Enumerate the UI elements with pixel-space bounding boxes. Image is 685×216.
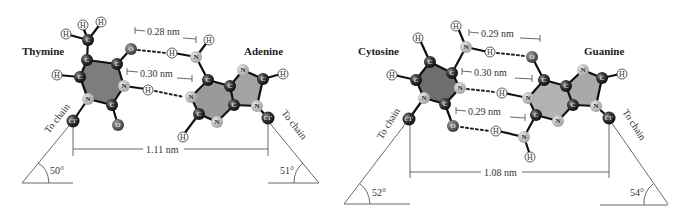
svg-text:C: C bbox=[563, 82, 568, 90]
svg-text:N: N bbox=[525, 94, 530, 102]
svg-text:H: H bbox=[206, 36, 212, 45]
thymine-title: Thymine bbox=[22, 45, 64, 57]
svg-text:C1': C1' bbox=[605, 115, 614, 121]
svg-text:N: N bbox=[555, 117, 560, 125]
svg-text:N: N bbox=[240, 66, 245, 74]
svg-text:H: H bbox=[415, 34, 421, 43]
svg-text:C: C bbox=[260, 75, 265, 83]
svg-text:C: C bbox=[413, 76, 418, 84]
svg-text:H: H bbox=[180, 133, 186, 142]
svg-text:H: H bbox=[80, 21, 86, 30]
svg-text:C: C bbox=[109, 101, 114, 109]
svg-text:H: H bbox=[280, 70, 286, 79]
svg-text:C: C bbox=[77, 73, 82, 81]
svg-text:C: C bbox=[196, 110, 201, 118]
svg-text:C: C bbox=[427, 58, 432, 66]
hbond-2-distance: 0.30 nm bbox=[140, 68, 173, 79]
guanine-to-chain-label: To chain bbox=[620, 107, 648, 142]
svg-text:N: N bbox=[214, 118, 219, 126]
cytosine-title: Cytosine bbox=[358, 45, 399, 57]
svg-text:H: H bbox=[499, 89, 505, 98]
svg-text:C: C bbox=[442, 100, 447, 108]
c1-c1-distance: 1.11 nm bbox=[146, 144, 179, 155]
svg-text:H: H bbox=[487, 48, 493, 57]
svg-text:O: O bbox=[450, 122, 456, 130]
svg-text:H: H bbox=[63, 30, 69, 39]
hbond-3-distance: 0.29 nm bbox=[468, 106, 501, 117]
svg-text:C: C bbox=[231, 101, 236, 109]
panel-thymine-adenine: C C C N C N C O O C1' HHH HH C C C N C N… bbox=[22, 17, 319, 183]
svg-text:H: H bbox=[389, 71, 395, 80]
svg-text:C1': C1' bbox=[69, 118, 78, 124]
guanine-title: Guanine bbox=[584, 45, 624, 57]
svg-text:N: N bbox=[593, 102, 598, 110]
adenine-title: Adenine bbox=[244, 45, 283, 57]
svg-text:H: H bbox=[619, 70, 625, 79]
svg-text:N: N bbox=[457, 84, 462, 92]
svg-text:N: N bbox=[85, 95, 90, 103]
svg-text:H: H bbox=[98, 18, 104, 27]
svg-text:O: O bbox=[529, 53, 535, 61]
svg-text:N: N bbox=[463, 43, 468, 51]
guanine-glycosidic-angle: 54° bbox=[630, 187, 644, 198]
svg-text:C: C bbox=[84, 56, 89, 64]
svg-text:C: C bbox=[85, 36, 90, 44]
adenine-glycosidic-angle: 51° bbox=[280, 165, 294, 176]
svg-text:H: H bbox=[493, 127, 499, 136]
svg-text:H: H bbox=[453, 22, 459, 31]
svg-text:N: N bbox=[580, 66, 585, 74]
svg-text:N: N bbox=[254, 102, 259, 110]
svg-text:H: H bbox=[527, 153, 533, 162]
svg-text:C: C bbox=[533, 111, 538, 119]
hbond-1-distance: 0.28 nm bbox=[147, 26, 180, 37]
svg-text:N: N bbox=[421, 94, 426, 102]
svg-text:H: H bbox=[145, 86, 151, 95]
cytosine-to-chain-label: To chain bbox=[374, 106, 402, 141]
thymine-glycosidic-angle: 50° bbox=[50, 165, 64, 176]
svg-text:H: H bbox=[54, 71, 60, 80]
c1-c1-distance: 1.08 nm bbox=[484, 167, 517, 178]
svg-text:N: N bbox=[121, 82, 126, 90]
hbond-1-distance: 0.29 nm bbox=[481, 28, 514, 39]
panel-cytosine-guanine: C C N C N C N O C1' HH HH C C C N C N N … bbox=[344, 21, 668, 205]
svg-text:C: C bbox=[227, 82, 232, 90]
base-pair-diagram: C C C N C N C O O C1' HHH HH C C C N C N… bbox=[0, 0, 685, 216]
svg-text:C: C bbox=[570, 101, 575, 109]
hbond-2-distance: 0.30 nm bbox=[474, 67, 507, 78]
adenine-to-chain-label: To chain bbox=[279, 107, 309, 141]
svg-text:N: N bbox=[521, 133, 526, 141]
svg-text:C: C bbox=[541, 76, 546, 84]
cytosine-glycosidic-angle: 52° bbox=[372, 187, 386, 198]
svg-text:O: O bbox=[128, 45, 134, 53]
svg-text:O: O bbox=[115, 121, 121, 129]
svg-text:N: N bbox=[193, 53, 198, 61]
svg-text:C: C bbox=[599, 74, 604, 82]
svg-text:C: C bbox=[449, 69, 454, 77]
svg-text:C: C bbox=[205, 76, 210, 84]
svg-text:N: N bbox=[188, 93, 193, 101]
hbond-dots bbox=[461, 53, 525, 131]
svg-text:H: H bbox=[169, 49, 175, 58]
svg-text:C1': C1' bbox=[405, 116, 414, 122]
svg-text:C1': C1' bbox=[264, 115, 273, 121]
svg-text:C: C bbox=[114, 60, 119, 68]
